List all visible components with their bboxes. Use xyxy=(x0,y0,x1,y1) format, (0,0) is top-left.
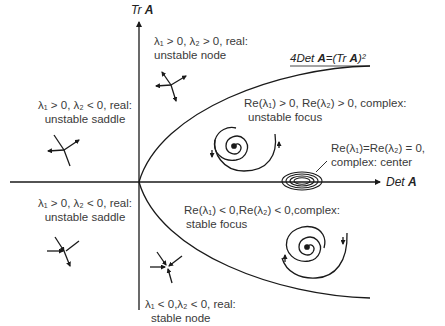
unstable-focus-condition: Re(λ₁) > 0, Re(λ₂) > 0, complex: xyxy=(244,96,406,110)
unstable-saddle-lower-label: λ₁ > 0, λ₂ < 0, real: unstable saddle xyxy=(38,196,132,224)
unstable-node-icon xyxy=(156,72,186,101)
stable-node-condition: λ₁ < 0,λ₂ < 0, real: xyxy=(145,297,236,311)
unstable-focus-label: Re(λ₁) > 0, Re(λ₂) > 0, complex: unstabl… xyxy=(244,96,406,124)
concentric-ellipses-icon xyxy=(282,161,327,190)
unstable-saddle-upper-label: λ₁ > 0, λ₂ < 0, real: unstable saddle xyxy=(38,98,132,126)
center-condition: Re(λ₁)=Re(λ₂) = 0, xyxy=(331,141,425,155)
saddle-icon-upper xyxy=(48,135,79,166)
unstable-focus-type: unstable focus xyxy=(244,110,406,124)
inward-spiral-icon xyxy=(282,227,347,279)
unstable-node-condition: λ₁ > 0, λ₂ > 0, real: xyxy=(154,34,248,48)
stable-focus-condition: Re(λ₁) < 0,Re(λ₂) < 0,complex: xyxy=(184,203,340,217)
unstable-node-label: λ₁ > 0, λ₂ > 0, real: unstable node xyxy=(154,34,248,62)
stable-focus-label: Re(λ₁) < 0,Re(λ₂) < 0,complex: stable fo… xyxy=(184,203,340,231)
stable-node-icon xyxy=(150,252,182,283)
saddle-icon-lower xyxy=(47,237,79,266)
outward-spiral-icon xyxy=(212,128,279,172)
saddle-lower-condition: λ₁ > 0, λ₂ < 0, real: xyxy=(38,196,132,210)
stable-node-type: stable node xyxy=(145,311,236,325)
saddle-lower-type: unstable saddle xyxy=(38,210,132,224)
unstable-node-type: unstable node xyxy=(154,48,248,62)
center-label: Re(λ₁)=Re(λ₂) = 0, complex: center xyxy=(331,141,425,169)
stable-node-label: λ₁ < 0,λ₂ < 0, real: stable node xyxy=(145,297,236,325)
center-type: complex: center xyxy=(331,155,425,169)
saddle-upper-condition: λ₁ > 0, λ₂ < 0, real: xyxy=(38,98,132,112)
x-axis-label: Det A xyxy=(386,175,417,189)
stable-focus-type: stable focus xyxy=(184,217,340,231)
curve-equation-label: 4Det A=(Tr A)² xyxy=(290,52,366,64)
y-axis-label: Tr A xyxy=(131,3,153,17)
saddle-upper-type: unstable saddle xyxy=(38,112,132,126)
